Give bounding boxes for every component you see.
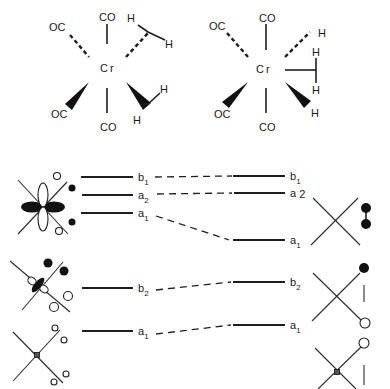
ligand-co-top: CO <box>259 12 276 24</box>
level-label: b1 <box>290 170 301 186</box>
correlation-lines <box>155 176 232 334</box>
correlation-line-b1 <box>155 176 232 177</box>
ligand-orbital-filled <box>69 219 76 226</box>
h2-orbital-filled <box>359 263 369 273</box>
ligand-orbital-filled <box>44 259 53 268</box>
ligand-co-bottom: CO <box>259 121 276 133</box>
wedge-bond-lower-left <box>65 82 89 110</box>
level-label: b2 <box>290 276 301 292</box>
wedge-bond-lower-right <box>285 82 311 108</box>
orbital-sketch-right-1 <box>311 198 371 245</box>
h2-orbital-open <box>359 338 369 348</box>
ligand-orbital-filled <box>60 267 69 276</box>
hashed-bond-upper-right <box>126 33 148 57</box>
hydrogen-label: H <box>312 46 320 58</box>
ligand-orbital-open <box>54 173 61 180</box>
correlation-line-a2 <box>157 193 232 194</box>
hashed-bond-upper-right <box>285 32 310 57</box>
ligand-orbital-open <box>50 303 59 312</box>
level-label: a1 <box>290 319 301 335</box>
h2-bond <box>147 93 160 105</box>
ligand-orbital-open <box>64 292 73 301</box>
ligand-oc-upper-left: OC <box>209 20 226 32</box>
wedge-bond-lower-right <box>126 82 151 110</box>
correlation-line-a1-lower <box>156 325 231 334</box>
metal-s-orbital <box>35 353 40 358</box>
orbital-sketch-left-2 <box>10 259 73 313</box>
correlation-line-b2 <box>156 282 231 290</box>
hydrogen-label: H <box>133 114 141 126</box>
correlation-line-a1-upper <box>156 216 229 240</box>
right-levels: b1 a 2 a1 b2 a1 <box>233 170 305 335</box>
hydrogen-label: H <box>311 107 319 119</box>
level-label: b2 <box>138 282 149 298</box>
level-label: a1 <box>290 234 301 250</box>
structure-2: CO OC Cr OC CO H H H H <box>209 12 326 133</box>
h2-bond <box>138 25 165 40</box>
ligand-co-bottom: CO <box>100 121 117 133</box>
ligand-oc-lower-left: OC <box>214 108 231 120</box>
wedge-bond-lower-left <box>222 82 248 108</box>
level-label: a 2 <box>290 187 305 200</box>
hydrogen-label: H <box>312 84 320 96</box>
orbital-correlation-diagram: CO OC Cr OC CO H H H H CO OC Cr OC CO H … <box>0 0 390 389</box>
orbital-sketch-left-3 <box>13 325 69 385</box>
ligand-oc-upper-left: OC <box>49 21 66 33</box>
h2-orbital-filled <box>361 203 371 213</box>
hashed-bond-upper-left <box>70 35 89 57</box>
orbital-sketch-right-2 <box>312 263 370 328</box>
hydrogen-label: H <box>318 27 326 39</box>
h2-orbital-open <box>360 318 370 328</box>
orbital-sketch-left-1 <box>18 173 76 235</box>
ligand-co-top: CO <box>99 11 116 23</box>
metal-s-orbital <box>335 370 340 375</box>
hydrogen-label: H <box>160 83 168 95</box>
hashed-bond-upper-left <box>227 33 248 57</box>
ligand-orbital-open <box>61 337 67 343</box>
hydrogen-label: H <box>165 38 173 50</box>
structure-1: CO OC Cr OC CO H H H H <box>49 11 173 133</box>
hydrogen-label: H <box>127 12 135 24</box>
ligand-orbital-open <box>51 379 57 385</box>
level-label: b1 <box>138 171 149 187</box>
orbital-sketch-right-3 <box>315 338 369 389</box>
ligand-orbital-open <box>63 371 69 377</box>
level-label: a1 <box>138 207 149 223</box>
ligand-orbital-filled <box>69 185 76 192</box>
ligand-orbital-open <box>52 325 58 331</box>
level-label: a1 <box>138 325 149 341</box>
ligand-orbital-open <box>56 228 63 235</box>
metal-label: Cr <box>256 63 272 75</box>
h2-orbital-filled <box>361 219 371 229</box>
level-label: a2 <box>138 189 149 205</box>
ligand-oc-lower-left: OC <box>51 108 68 120</box>
left-levels: b1 a2 a1 b2 a1 <box>81 171 149 341</box>
metal-label: Cr <box>100 62 116 74</box>
